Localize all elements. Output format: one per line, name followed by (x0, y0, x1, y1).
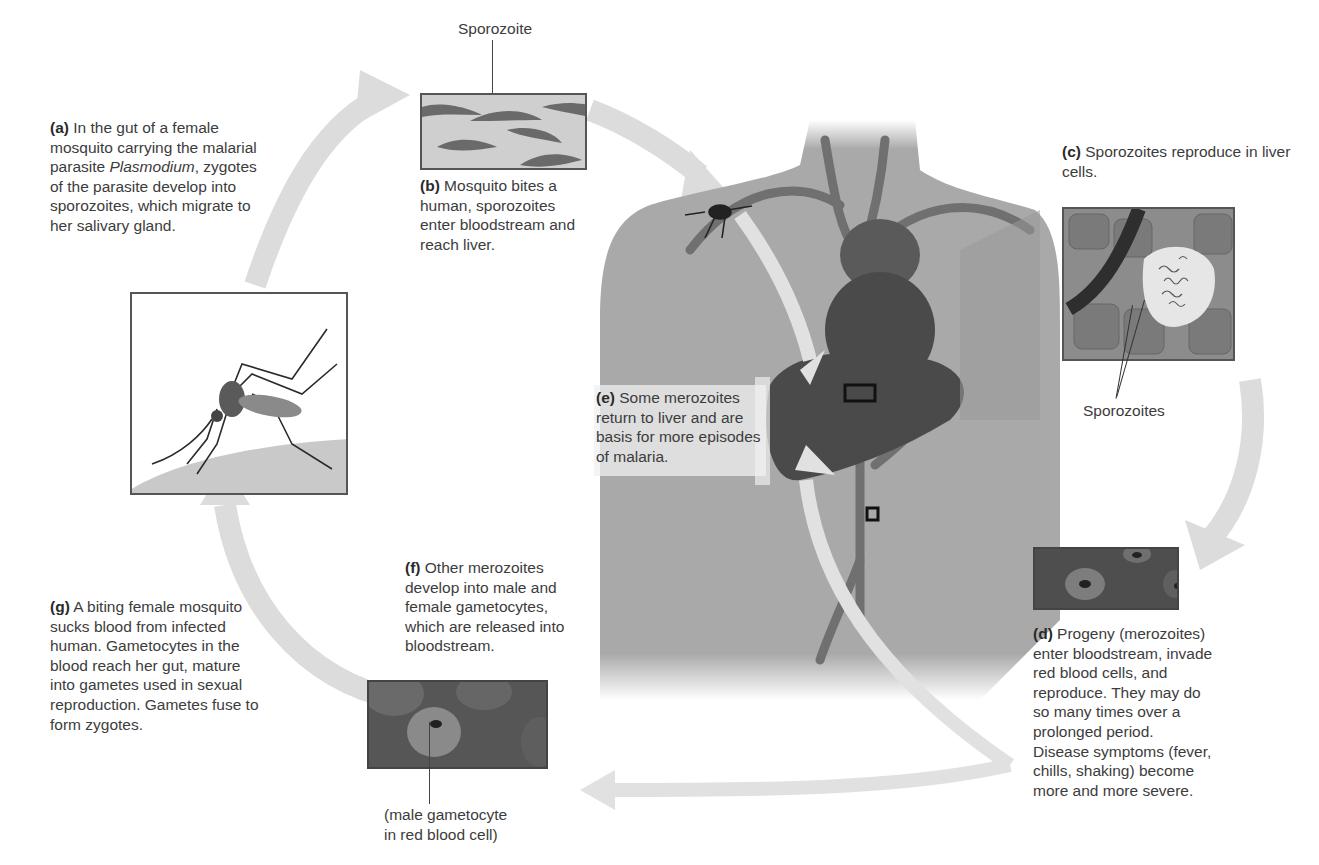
gametocyte-panel (367, 680, 548, 769)
sporozoite-pointer (492, 40, 493, 100)
liver-cells-panel (1062, 207, 1235, 361)
gametocyte-cells (369, 682, 548, 769)
sporozoite-panel (420, 93, 587, 170)
step-c-caption: (c) Sporozoites reproduce in liver cells… (1062, 142, 1292, 181)
liver-cells (1064, 209, 1235, 361)
step-g-caption: (g) A biting female mosquito sucks blood… (50, 597, 265, 734)
sporozoite-label: Sporozoite (458, 20, 532, 38)
gametocyte-label-line1: (male gametocyte (384, 806, 507, 824)
step-e-caption: (e) Some merozoites return to liver and … (594, 385, 766, 476)
infected-red-blood-cells (1035, 549, 1179, 610)
step-d-caption: (d) Progeny (merozoites) enter bloodstre… (1033, 624, 1213, 800)
gametocyte-pointer (429, 722, 430, 804)
step-f-caption: (f) Other merozoites develop into male a… (405, 558, 585, 656)
step-a-caption: (a) In the gut of a female mosquito carr… (50, 118, 265, 236)
gametocyte-label-line2: in red blood cell) (384, 826, 498, 844)
mosquito-closeup (132, 294, 348, 495)
step-b-caption: (b) Mosquito bites a human, sporozoites … (420, 176, 590, 254)
mosquito-panel (130, 292, 348, 495)
sporozoites-label: Sporozoites (1083, 402, 1165, 420)
sporozoite-cells (422, 95, 587, 170)
merozoite-panel (1033, 547, 1179, 610)
